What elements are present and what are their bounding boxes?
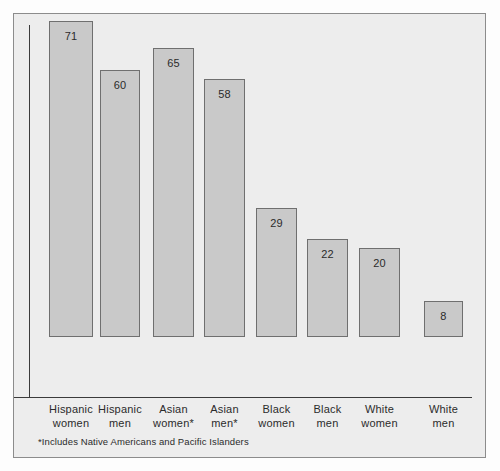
bar: 65 (153, 48, 194, 337)
category-label: Whitemen (404, 402, 484, 430)
bar-value-label: 29 (257, 217, 296, 229)
bar-value-label: 71 (50, 30, 92, 42)
bar-value-label: 58 (205, 88, 244, 100)
category-label-line: men (404, 416, 484, 430)
bar: 58 (204, 79, 245, 337)
chart-footnote: *Includes Native Americans and Pacific I… (38, 436, 249, 447)
bar-value-label: 65 (154, 57, 193, 69)
bar: 71 (49, 21, 93, 337)
bar: 60 (100, 70, 140, 337)
bar: 29 (256, 208, 297, 337)
bar-value-label: 60 (101, 79, 139, 91)
bar-value-label: 22 (308, 248, 347, 260)
bar: 20 (359, 248, 400, 337)
plot-area: 716065582922208 HispanicwomenHispanicmen… (14, 14, 487, 459)
chart-figure: 716065582922208 HispanicwomenHispanicmen… (0, 0, 500, 471)
bar: 22 (307, 239, 348, 337)
category-label-line: White (404, 402, 484, 416)
bar: 8 (424, 301, 463, 337)
bar-value-label: 20 (360, 257, 399, 269)
chart-panel: 716065582922208 HispanicwomenHispanicmen… (13, 13, 486, 458)
bar-series: 716065582922208 (14, 14, 487, 398)
bar-value-label: 8 (425, 310, 462, 322)
